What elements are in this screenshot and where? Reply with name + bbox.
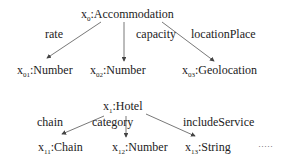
edge-label-category: category [92,115,133,129]
edge-label-chain: chain [37,115,63,129]
node-x13: x13:String [185,140,231,159]
node-x11: x11:Chain [38,140,83,159]
edge-label-includeService: includeService [183,115,254,129]
node-x03: x03:Geolocation [182,63,257,82]
ellipsis: ····· [258,139,273,153]
edge-label-locationPlace: locationPlace [191,27,256,41]
edge-label-rate: rate [45,27,63,41]
node-x12: x12:Number [112,140,168,159]
edge-label-capacity: capacity [136,27,176,41]
node-x0: x0:Accommodation [81,7,174,26]
node-x01: x01:Number [17,63,73,82]
node-x02: x02:Number [90,63,146,82]
